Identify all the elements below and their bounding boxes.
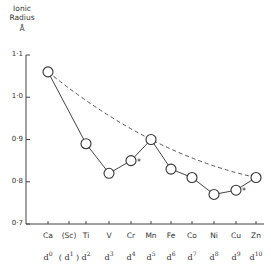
data-point-marker — [43, 67, 53, 77]
data-point-marker — [146, 135, 156, 145]
data-point-marker — [231, 185, 241, 195]
data-point-marker — [209, 189, 219, 199]
chart-plot-area: ** — [0, 0, 271, 271]
data-point-marker — [166, 164, 176, 174]
point-annotation: * — [242, 187, 246, 196]
data-point-marker — [104, 168, 114, 178]
data-point-marker — [187, 173, 197, 183]
data-point-marker — [251, 173, 261, 183]
dashed-trend-curve — [48, 72, 256, 178]
point-annotation: * — [137, 158, 141, 167]
data-point-marker — [126, 156, 136, 166]
observed-radius-line — [48, 72, 256, 195]
data-point-marker — [81, 139, 91, 149]
